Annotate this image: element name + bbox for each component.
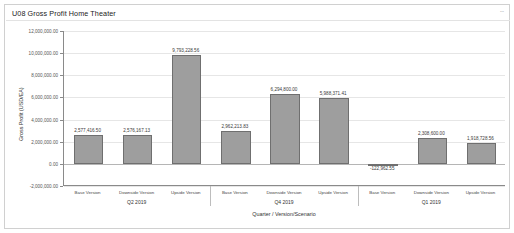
bar-value-label: 2,308,600.00	[407, 131, 456, 136]
x-axis-group-label: Q2 2019	[63, 199, 210, 205]
y-axis-tick-mark	[60, 75, 63, 76]
bar[interactable]	[172, 55, 201, 163]
bar-value-label: 5,988,371.41	[309, 91, 358, 96]
bar[interactable]	[418, 138, 447, 164]
x-axis-group-label: Q4 2019	[210, 199, 357, 205]
y-axis-tick-mark	[60, 97, 63, 98]
x-axis-category-label: Downside Version	[407, 190, 456, 195]
y-axis-tick-label: 8,000,000.00	[5, 73, 58, 78]
bar[interactable]	[270, 94, 299, 164]
gridline	[64, 53, 505, 54]
title-divider	[6, 20, 510, 21]
gridline	[64, 31, 505, 32]
y-axis-tick-label: 6,000,000.00	[5, 95, 58, 100]
bar-value-label: 9,793,228.56	[161, 48, 210, 53]
y-axis-title: Gross Profit (USD/EA)	[18, 87, 24, 141]
x-axis-group-label: Q1 2019	[358, 199, 505, 205]
y-axis-tick-mark	[60, 142, 63, 143]
chart-page: U08 Gross Profit Home Theater ⋯ 12,000,0…	[0, 0, 514, 233]
y-axis-tick-mark	[60, 186, 63, 187]
gridline	[64, 186, 505, 187]
card-menu-icon[interactable]: ⋯	[500, 9, 504, 14]
bar-value-label: 2,962,213.83	[210, 124, 259, 129]
bar[interactable]	[319, 98, 348, 164]
y-axis-tick-mark	[60, 120, 63, 121]
y-axis-tick-label: 4,000,000.00	[5, 117, 58, 122]
bar[interactable]	[467, 143, 496, 164]
bar[interactable]	[221, 131, 250, 164]
x-axis-group-separator	[210, 186, 211, 206]
y-axis-tick-mark	[60, 164, 63, 165]
bar-value-label: 2,576,167.13	[112, 128, 161, 133]
x-axis-group-separator	[358, 186, 359, 206]
bar[interactable]	[74, 135, 103, 164]
plot-area	[63, 31, 505, 186]
bar-value-label: 6,294,800.00	[259, 87, 308, 92]
y-axis-tick-label: 12,000,000.00	[5, 29, 58, 34]
x-axis-category-label: Upside Version	[161, 190, 210, 195]
bar-value-label: 2,577,416.50	[63, 128, 112, 133]
x-axis-category-label: Base Version	[210, 190, 259, 195]
gridline	[64, 75, 505, 76]
bar[interactable]	[123, 135, 152, 164]
y-axis-tick-label: 2,000,000.00	[5, 139, 58, 144]
x-axis-category-label: Upside Version	[456, 190, 505, 195]
x-axis-category-label: Base Version	[63, 190, 112, 195]
y-axis-tick-mark	[60, 31, 63, 32]
y-axis-tick-label: 0.00	[5, 161, 58, 166]
zero-line	[64, 164, 505, 165]
page-title: U08 Gross Profit Home Theater	[12, 9, 116, 18]
y-axis-tick-mark	[60, 53, 63, 54]
x-axis-title: Quarter / Version/Scenario	[63, 211, 505, 217]
x-axis-category-label: Downside Version	[112, 190, 161, 195]
bar-value-label: -122,962.55	[358, 166, 407, 171]
x-axis-category-label: Upside Version	[309, 190, 358, 195]
x-axis-category-label: Downside Version	[259, 190, 308, 195]
chart-card: U08 Gross Profit Home Theater ⋯ 12,000,0…	[4, 4, 510, 229]
x-axis-category-label: Base Version	[358, 190, 407, 195]
y-axis-tick-label: 10,000,000.00	[5, 51, 58, 56]
bar-value-label: 1,918,728.56	[456, 136, 505, 141]
y-axis-tick-label: -2,000,000.00	[5, 184, 58, 189]
